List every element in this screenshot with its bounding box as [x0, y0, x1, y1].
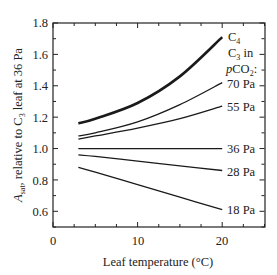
x-axis-label: Leaf temperature (°C): [103, 255, 214, 269]
y-tick-1.2: 1.2: [32, 111, 48, 125]
label-36pa: 36 Pa: [227, 142, 256, 156]
x-tick-0: 0: [50, 234, 56, 248]
y-tick-1.4: 1.4: [32, 79, 48, 93]
x-tick-10: 10: [132, 234, 145, 248]
y-axis-label: Asat, relative to C3 leaf at 36 Pa: [11, 48, 27, 203]
series-labels: C4 C3 in pCO2: 70 Pa 55 Pa 36 Pa 28 Pa 1…: [225, 30, 257, 217]
data-series: [78, 37, 222, 210]
series-line-0: [78, 37, 222, 123]
y-tick-labels: 0.6 0.8 1.0 1.2 1.4 1.6 1.8: [32, 16, 48, 219]
label-70pa: 70 Pa: [227, 77, 256, 91]
x-tick-20: 20: [216, 234, 229, 248]
y-tick-1.0: 1.0: [32, 142, 48, 156]
y-tick-1.6: 1.6: [32, 48, 48, 62]
chart-svg: 0.6 0.8 1.0 1.2 1.4 1.6 1.8 0 10 20 Leaf…: [0, 0, 277, 275]
label-55pa: 55 Pa: [227, 100, 256, 114]
series-line-5: [78, 167, 222, 209]
label-c4: C4: [228, 30, 240, 46]
label-pco2: pCO2:: [225, 62, 257, 78]
y-tick-0.8: 0.8: [32, 174, 48, 188]
series-line-1: [78, 83, 222, 136]
label-18pa: 18 Pa: [227, 203, 256, 217]
series-line-4: [78, 155, 222, 171]
y-tick-1.8: 1.8: [32, 16, 48, 30]
y-tick-0.6: 0.6: [32, 205, 48, 219]
chart-figure: 0.6 0.8 1.0 1.2 1.4 1.6 1.8 0 10 20 Leaf…: [0, 0, 277, 275]
series-line-2: [78, 106, 222, 139]
label-c3-in: C3 in: [228, 46, 254, 62]
label-28pa: 28 Pa: [227, 165, 256, 179]
x-tick-labels: 0 10 20: [50, 234, 228, 248]
